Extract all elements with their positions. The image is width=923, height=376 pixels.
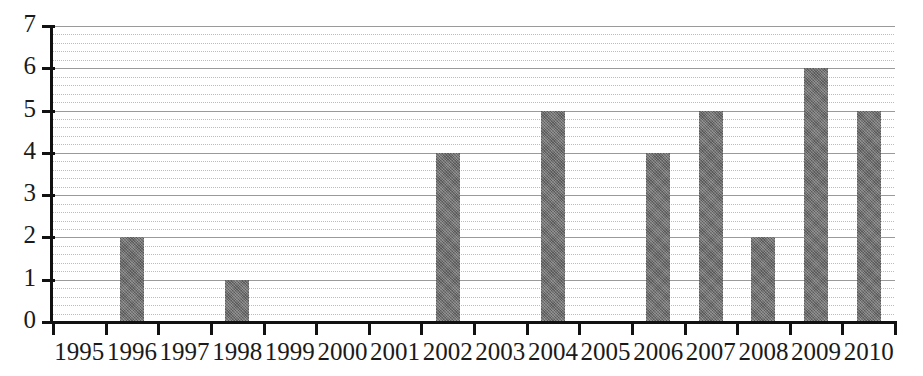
- y-axis-tick: [42, 194, 55, 197]
- y-axis-tick-label: 4: [8, 138, 36, 163]
- gridline-minor: [53, 136, 895, 137]
- x-axis-tick: [578, 324, 581, 335]
- x-axis-tick: [157, 324, 160, 335]
- gridline-minor: [53, 212, 895, 213]
- gridline-minor: [53, 144, 895, 145]
- x-axis-tick: [526, 324, 529, 335]
- gridline-minor: [53, 178, 895, 179]
- gridline-minor: [53, 221, 895, 222]
- gridline-minor: [53, 43, 895, 44]
- x-axis-tick: [473, 324, 476, 335]
- gridline-major: [53, 111, 895, 112]
- y-axis-tick: [42, 236, 55, 239]
- bar: [699, 111, 723, 322]
- y-axis-tick: [42, 110, 55, 113]
- x-axis-tick: [52, 324, 55, 335]
- x-axis-tick: [631, 324, 634, 335]
- x-axis-tick: [684, 324, 687, 335]
- gridline-minor: [53, 51, 895, 52]
- gridline-minor: [53, 204, 895, 205]
- x-axis-tick: [736, 324, 739, 335]
- x-axis-tick: [210, 324, 213, 335]
- x-axis-tick: [263, 324, 266, 335]
- y-axis-tick-label: 1: [8, 265, 36, 290]
- bar: [225, 280, 249, 322]
- x-axis-tick-label: 2010: [834, 337, 904, 367]
- plot-area: [53, 26, 895, 322]
- y-axis-tick-label: 0: [8, 307, 36, 332]
- gridline-minor: [53, 34, 895, 35]
- gridline-major: [53, 68, 895, 69]
- bar: [436, 153, 460, 322]
- gridline-minor: [53, 127, 895, 128]
- gridline-major: [53, 26, 895, 27]
- x-axis-tick: [789, 324, 792, 335]
- bar: [541, 111, 565, 322]
- gridline-minor: [53, 170, 895, 171]
- y-axis-tick-label: 6: [8, 53, 36, 78]
- x-axis-tick: [105, 324, 108, 335]
- bar: [857, 111, 881, 322]
- y-axis-tick-label: 5: [8, 96, 36, 121]
- x-axis-tick: [894, 324, 897, 335]
- gridline-minor: [53, 187, 895, 188]
- bar: [804, 68, 828, 322]
- gridline-minor: [53, 161, 895, 162]
- gridline-minor: [53, 102, 895, 103]
- x-axis-tick: [420, 324, 423, 335]
- bar: [120, 237, 144, 322]
- y-axis-tick: [42, 279, 55, 282]
- gridline-minor: [53, 60, 895, 61]
- y-axis-tick: [42, 67, 55, 70]
- bar: [646, 153, 670, 322]
- gridline-minor: [53, 85, 895, 86]
- y-axis-tick-label: 2: [8, 222, 36, 247]
- gridline-minor: [53, 77, 895, 78]
- x-axis-tick: [368, 324, 371, 335]
- gridline-minor: [53, 229, 895, 230]
- gridline-minor: [53, 119, 895, 120]
- gridline-minor: [53, 94, 895, 95]
- gridline-major: [53, 195, 895, 196]
- bar: [751, 237, 775, 322]
- x-axis-tick: [841, 324, 844, 335]
- bar-chart: 01234567 1995199619971998199920002001200…: [0, 0, 923, 376]
- y-axis-tick: [42, 152, 55, 155]
- x-axis-tick: [315, 324, 318, 335]
- gridline-major: [53, 153, 895, 154]
- y-axis-tick: [42, 25, 55, 28]
- y-axis-tick-label: 3: [8, 180, 36, 205]
- y-axis-tick-label: 7: [8, 11, 36, 36]
